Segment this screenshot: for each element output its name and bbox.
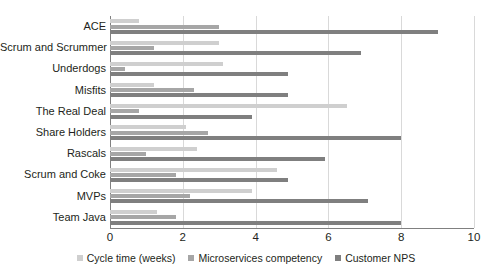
x-axis-tick: 6 (325, 231, 331, 243)
y-axis-label: Team Java (0, 207, 106, 228)
legend-item[interactable]: Cycle time (weeks) (77, 252, 176, 264)
legend-item[interactable]: Customer NPS (335, 252, 415, 264)
bar[interactable] (110, 210, 157, 214)
bar[interactable] (110, 88, 194, 92)
bar-group (110, 80, 474, 101)
bar[interactable] (110, 136, 401, 140)
y-axis-label: Rascals (0, 143, 106, 164)
bar[interactable] (110, 221, 401, 225)
bar-group (110, 207, 474, 228)
bar[interactable] (110, 46, 154, 50)
legend-swatch-icon (188, 255, 194, 261)
legend-label: Customer NPS (345, 252, 415, 264)
x-axis-tick-labels: 0246810 (110, 231, 474, 247)
y-axis-label: Scrum and Coke (0, 164, 106, 185)
bar[interactable] (110, 152, 146, 156)
bar[interactable] (110, 62, 223, 66)
bar[interactable] (110, 189, 252, 193)
bar[interactable] (110, 178, 288, 182)
x-axis-tick: 8 (398, 231, 404, 243)
bar[interactable] (110, 194, 190, 198)
bar[interactable] (110, 147, 197, 151)
y-axis-category-labels: ACEScrum and ScrummerUnderdogsMisfitsThe… (0, 16, 106, 228)
x-axis-tick: 0 (107, 231, 113, 243)
chart-legend: Cycle time (weeks)Microservices competen… (0, 252, 492, 264)
plot-area (110, 16, 474, 228)
bar[interactable] (110, 157, 325, 161)
y-axis-label: Scrum and Scrummer (0, 37, 106, 58)
bar[interactable] (110, 173, 176, 177)
bar[interactable] (110, 19, 139, 23)
y-axis-label: ACE (0, 16, 106, 37)
legend-label: Microservices competency (198, 252, 322, 264)
bar[interactable] (110, 41, 219, 45)
y-axis-label: The Real Deal (0, 101, 106, 122)
bar[interactable] (110, 125, 186, 129)
bar-group (110, 186, 474, 207)
bar[interactable] (110, 215, 176, 219)
bar-group (110, 143, 474, 164)
bar[interactable] (110, 25, 219, 29)
bar-group (110, 164, 474, 185)
legend-swatch-icon (77, 255, 83, 261)
bar[interactable] (110, 115, 252, 119)
bar[interactable] (110, 168, 277, 172)
legend-label: Cycle time (weeks) (87, 252, 176, 264)
bar[interactable] (110, 109, 139, 113)
bar[interactable] (110, 83, 154, 87)
bar[interactable] (110, 51, 361, 55)
bar-group (110, 101, 474, 122)
x-axis-line (110, 228, 474, 229)
y-axis-label: Underdogs (0, 58, 106, 79)
bar-group (110, 122, 474, 143)
x-axis-tick: 4 (252, 231, 258, 243)
y-axis-label: MVPs (0, 186, 106, 207)
bar-group (110, 16, 474, 37)
bar-rows (110, 16, 474, 228)
bar[interactable] (110, 93, 288, 97)
gridline-10 (474, 16, 475, 228)
bar-group (110, 58, 474, 79)
bar[interactable] (110, 30, 438, 34)
bar-group (110, 37, 474, 58)
x-axis-tick: 10 (468, 231, 481, 243)
bar[interactable] (110, 104, 347, 108)
bar-chart: ACEScrum and ScrummerUnderdogsMisfitsThe… (0, 0, 492, 279)
bar[interactable] (110, 72, 288, 76)
bar[interactable] (110, 199, 368, 203)
bar[interactable] (110, 67, 125, 71)
y-axis-label: Misfits (0, 80, 106, 101)
legend-item[interactable]: Microservices competency (188, 252, 322, 264)
legend-swatch-icon (335, 255, 341, 261)
x-axis-tick: 2 (180, 231, 186, 243)
y-axis-label: Share Holders (0, 122, 106, 143)
bar[interactable] (110, 131, 208, 135)
